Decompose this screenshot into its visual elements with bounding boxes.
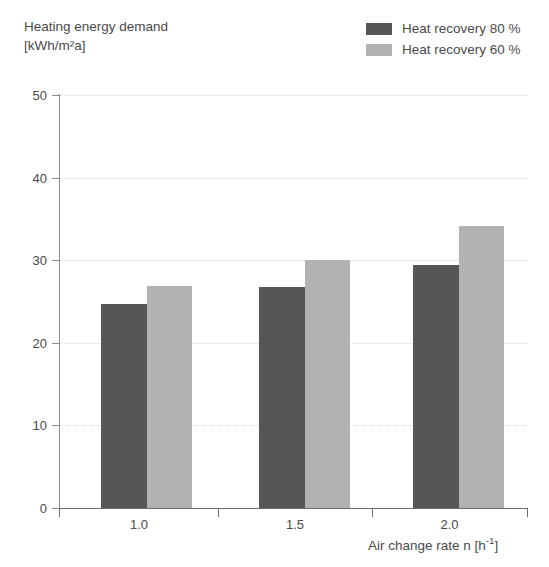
gridline-30 (60, 260, 527, 262)
y-tick-label-10: 10 (33, 418, 47, 433)
y-tick-label-20: 20 (33, 335, 47, 350)
x-tick-label-1-0: 1.0 (130, 517, 148, 532)
y-tick-mark-30 (52, 260, 60, 261)
bar-2-0-series-2 (459, 226, 505, 508)
x-axis-separator-0 (59, 508, 60, 517)
x-axis-title: Air change rate n [h-1] (368, 535, 498, 553)
plot-area: 01020304050 1.01.52.0 (60, 95, 527, 508)
x-axis-separator-1 (218, 508, 219, 517)
chart-title-line-1: Heating energy demand (24, 17, 168, 36)
y-tick-mark-20 (52, 343, 60, 344)
x-axis-unit-close: ] (494, 538, 498, 553)
x-axis-title-text: Air change rate n (368, 538, 471, 553)
x-axis-unit-open: [h (471, 538, 486, 553)
bar-1-0-series-1 (101, 304, 147, 508)
chart-title-line-2: [kWh/m²a] (24, 36, 168, 55)
y-tick-mark-40 (52, 178, 60, 179)
legend-label-series-1: Heat recovery 80 % (402, 21, 521, 36)
bar-1-5-series-1 (259, 287, 305, 508)
x-axis-separator-2 (372, 508, 373, 517)
chart-legend: Heat recovery 80 % Heat recovery 60 % (366, 19, 521, 61)
legend-swatch-icon-series-1 (366, 23, 392, 35)
legend-label-series-2: Heat recovery 60 % (402, 42, 521, 57)
bar-1-5-series-2 (305, 260, 351, 508)
gridline-50 (60, 95, 527, 97)
y-axis-line (59, 94, 60, 509)
y-tick-mark-10 (52, 425, 60, 426)
y-tick-label-40: 40 (33, 170, 47, 185)
y-tick-label-50: 50 (33, 88, 47, 103)
gridline-40 (60, 178, 527, 180)
x-tick-label-2-0: 2.0 (440, 517, 458, 532)
x-tick-label-1-5: 1.5 (286, 517, 304, 532)
legend-item-heat-recovery-80: Heat recovery 80 % (366, 19, 521, 38)
legend-item-heat-recovery-60: Heat recovery 60 % (366, 40, 521, 59)
y-tick-mark-50 (52, 95, 60, 96)
y-tick-label-0: 0 (40, 501, 47, 516)
x-axis-separator-3 (527, 508, 528, 517)
x-axis-line (59, 508, 528, 509)
bar-1-0-series-2 (147, 286, 193, 508)
legend-swatch-icon-series-2 (366, 44, 392, 56)
bar-2-0-series-1 (413, 265, 459, 508)
page-title: Heating energy demand [kWh/m²a] (24, 17, 168, 55)
y-tick-label-30: 30 (33, 253, 47, 268)
